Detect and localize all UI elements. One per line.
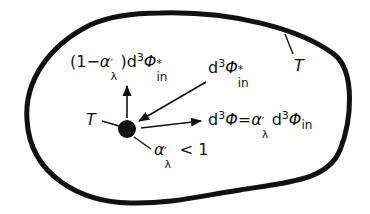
star-superscript: * bbox=[156, 58, 162, 69]
reflected-flux-label: (1−α′λ)d3Φ*in bbox=[70, 54, 166, 70]
alpha-prime: ′ bbox=[262, 116, 265, 127]
equals-sign: = bbox=[238, 110, 251, 129]
cavity-diagram bbox=[0, 0, 370, 214]
phi-symbol: Φ bbox=[225, 110, 238, 129]
differential-d: d bbox=[208, 110, 218, 129]
incident-arrow bbox=[139, 82, 206, 121]
cavity-wall bbox=[27, 13, 350, 203]
exponent: 3 bbox=[282, 109, 289, 122]
lambda-subscript: λ bbox=[262, 129, 269, 140]
absorptivity-leader bbox=[134, 137, 151, 149]
differential-d: d bbox=[272, 110, 282, 129]
in-subscript: in bbox=[301, 118, 312, 132]
less-than-one: < 1 bbox=[175, 140, 209, 159]
body-temperature-leader bbox=[102, 121, 119, 126]
wall-temperature-label: T bbox=[294, 58, 304, 74]
lambda-subscript: λ bbox=[165, 159, 172, 170]
differential-d: d bbox=[208, 58, 218, 77]
absorptivity-label: α′λ < 1 bbox=[154, 142, 208, 158]
wall-temperature-leader bbox=[285, 34, 293, 54]
alpha-prime: ′ bbox=[110, 58, 113, 69]
phi-symbol: Φ bbox=[144, 52, 157, 71]
differential-d: d bbox=[127, 52, 137, 71]
alpha-symbol: α bbox=[100, 52, 111, 71]
reflected-prefix: (1− bbox=[70, 52, 100, 71]
alpha-symbol: α bbox=[154, 140, 165, 159]
alpha-symbol: α bbox=[251, 110, 262, 129]
alpha-prime: ′ bbox=[165, 146, 168, 157]
phi-symbol: Φ bbox=[289, 110, 302, 129]
phi-symbol: Φ bbox=[225, 58, 238, 77]
star-superscript: * bbox=[238, 64, 244, 75]
in-subscript: in bbox=[238, 77, 249, 89]
emitted-flux-label: d3Φ=α′λd3Φin bbox=[208, 112, 312, 128]
body-sphere bbox=[118, 120, 136, 138]
emitted-arrow bbox=[141, 121, 201, 128]
in-subscript: in bbox=[156, 71, 167, 83]
body-temperature-label: T bbox=[86, 112, 96, 128]
lambda-subscript: λ bbox=[110, 71, 117, 82]
incident-flux-label: d3Φ*in bbox=[208, 60, 248, 76]
exponent: 3 bbox=[137, 51, 144, 64]
